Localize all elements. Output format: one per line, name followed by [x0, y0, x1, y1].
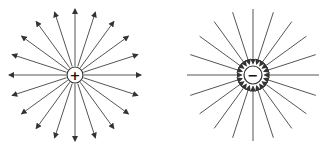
field-line [260, 84, 292, 128]
field-line [190, 79, 242, 96]
field-line [257, 86, 274, 138]
negative-charge-field: − [187, 9, 319, 141]
field-line [262, 82, 306, 114]
field-line [260, 22, 292, 66]
field-line [233, 86, 250, 138]
field-line [264, 79, 316, 96]
field-line [257, 12, 274, 64]
field-lines-diagram: + − [0, 0, 325, 147]
field-line [200, 36, 244, 68]
field-line [264, 55, 316, 72]
field-line [214, 84, 246, 128]
field-line [262, 36, 306, 68]
positive-charge-field: + [9, 9, 141, 141]
negative-charge-sign: − [248, 68, 259, 83]
field-line [190, 55, 242, 72]
field-line [233, 12, 250, 64]
field-line [214, 22, 246, 66]
positive-charge-sign: + [70, 68, 81, 83]
field-line [200, 82, 244, 114]
